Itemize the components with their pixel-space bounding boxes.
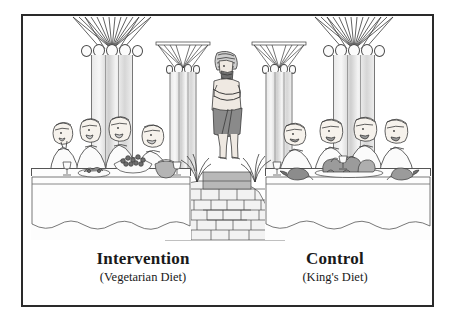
caption-control-subtitle: (King's Diet) bbox=[245, 270, 425, 286]
goblet-left-2 bbox=[171, 160, 183, 178]
tablecloth bbox=[31, 176, 191, 240]
tablecloth bbox=[265, 176, 431, 240]
caption-control: Control (King's Diet) bbox=[245, 250, 425, 285]
goblet-right bbox=[271, 160, 283, 178]
roast-bird-right bbox=[385, 164, 419, 182]
greens-platter bbox=[77, 164, 111, 178]
vegetable-bowl bbox=[109, 153, 157, 175]
goblet-left bbox=[61, 160, 73, 178]
caption-control-title: Control bbox=[245, 250, 425, 268]
illustration-frame: Intervention (Vegetarian Diet) Control (… bbox=[21, 14, 434, 307]
caption-intervention-subtitle: (Vegetarian Diet) bbox=[43, 270, 243, 286]
roast-meat-platter bbox=[313, 152, 385, 178]
caption-intervention: Intervention (Vegetarian Diet) bbox=[43, 250, 243, 285]
caption-intervention-title: Intervention bbox=[43, 250, 243, 268]
banquet-scene: Intervention (Vegetarian Diet) Control (… bbox=[23, 16, 432, 305]
roast-fowl-left bbox=[279, 164, 313, 182]
goblet-right-2 bbox=[337, 154, 349, 172]
illustration-canvas: Intervention (Vegetarian Diet) Control (… bbox=[0, 0, 454, 323]
